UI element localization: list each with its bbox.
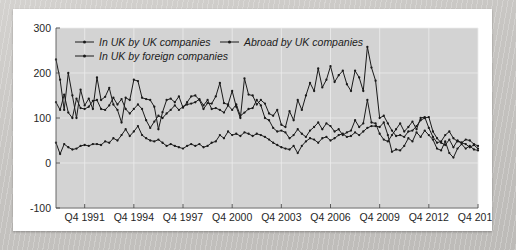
y-tick-label: 100 — [33, 112, 51, 124]
y-tick-label: -100 — [30, 202, 51, 214]
figure-container: -1000100200300 Q4 1991Q4 1994Q4 1997Q4 2… — [13, 9, 492, 231]
x-tick-label: Q4 2006 — [310, 211, 350, 223]
y-axis-tick-labels: -1000100200300 — [30, 22, 51, 214]
legend-marker-icon — [83, 55, 86, 58]
x-tick-label: Q4 1994 — [114, 211, 154, 223]
y-tick-label: 200 — [33, 67, 51, 79]
x-axis-tick-labels: Q4 1991Q4 1994Q4 1997Q4 2000Q4 2003Q4 20… — [65, 211, 492, 223]
line-chart[interactable]: -1000100200300 Q4 1991Q4 1994Q4 1997Q4 2… — [13, 9, 492, 231]
legend-marker-icon — [83, 41, 86, 44]
y-tick-label: 300 — [33, 22, 51, 34]
x-tick-label: Q4 1991 — [65, 211, 105, 223]
x-tick-label: Q4 1997 — [163, 211, 203, 223]
legend-item-label: In UK by UK companies — [99, 36, 211, 48]
x-tick-label: Q4 2000 — [212, 211, 252, 223]
x-tick-label: Q4 2015 — [458, 211, 492, 223]
legend-item-label: Abroad by UK companies — [243, 36, 364, 48]
x-tick-label: Q4 2009 — [360, 211, 400, 223]
x-tick-label: Q4 2012 — [409, 211, 449, 223]
chart-card: -1000100200300 Q4 1991Q4 1994Q4 1997Q4 2… — [13, 9, 492, 231]
x-tick-label: Q4 2003 — [261, 211, 301, 223]
y-tick-label: 0 — [45, 157, 51, 169]
legend-item-3[interactable]: In UK by foreign companies — [75, 50, 229, 62]
legend-marker-icon — [228, 41, 231, 44]
legend-item-label: In UK by foreign companies — [99, 50, 229, 62]
